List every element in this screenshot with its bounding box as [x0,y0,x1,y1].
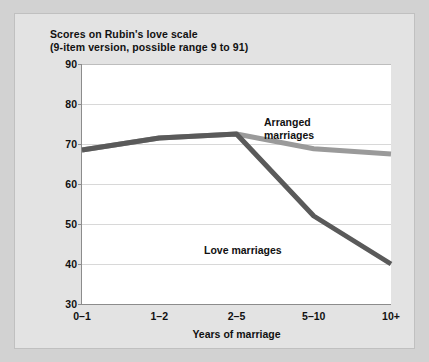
x-axis-tick-label: 10+ [382,310,400,322]
annotation-arranged-line-2: marriages [264,129,314,142]
annotation-love-marriages: Love marriages [204,244,282,257]
y-axis-tick-label: 50 [65,218,77,230]
chart-title-line-1: Scores on Rubin's love scale [50,28,380,41]
y-axis-tick-mark [78,304,82,305]
y-axis-tick-label: 30 [65,298,77,310]
x-axis-tick-label: 2–5 [228,310,246,322]
y-axis-tick-label: 40 [65,258,77,270]
annotation-love-line-1: Love marriages [204,244,282,257]
y-axis-tick-label: 80 [65,98,77,110]
x-axis-tick-label: 5–10 [302,310,325,322]
annotation-arranged-line-1: Arranged [264,116,314,129]
y-axis-tick-label: 60 [65,178,77,190]
series-lines [82,64,391,304]
annotation-arranged-marriages: Arranged marriages [264,116,314,141]
y-axis-tick-label: 90 [65,58,77,70]
chart-title-line-2: (9-item version, possible range 9 to 91) [50,41,380,54]
y-axis-tick-label: 70 [65,138,77,150]
chart-title: Scores on Rubin's love scale (9-item ver… [50,28,380,54]
x-axis-title: Years of marriage [192,328,280,340]
chart-figure: Scores on Rubin's love scale (9-item ver… [14,13,415,349]
plot-area: 30405060708090 0–11–22–55–1010+ Arranged… [81,64,391,305]
x-axis-tick-label: 1–2 [150,310,168,322]
x-axis-tick-label: 0–1 [73,310,91,322]
